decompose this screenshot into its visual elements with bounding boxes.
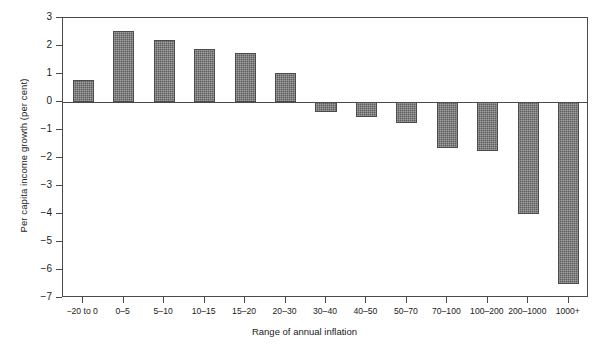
x-axis-tick bbox=[365, 297, 366, 303]
y-axis: 3210−1−2−3−4−5−6−7 bbox=[0, 0, 609, 350]
x-axis-tick-label: 30–40 bbox=[313, 306, 337, 316]
x-axis-tick bbox=[446, 297, 447, 303]
y-axis-tick bbox=[56, 213, 62, 214]
x-axis-tick-label: 0–5 bbox=[116, 306, 130, 316]
x-axis-tick-label: −20 to 0 bbox=[67, 306, 98, 316]
y-axis-tick-label: 1 bbox=[8, 68, 52, 78]
x-axis-tick-label: 70–100 bbox=[432, 306, 461, 316]
y-axis-tick bbox=[56, 129, 62, 130]
x-axis-tick-label: 200–1000 bbox=[508, 306, 546, 316]
x-axis-tick-label: 50–70 bbox=[394, 306, 418, 316]
y-axis-tick bbox=[56, 157, 62, 158]
y-axis-tick-label: −2 bbox=[8, 152, 52, 162]
x-axis-tick bbox=[285, 297, 286, 303]
x-axis-tick bbox=[487, 297, 488, 303]
x-axis-tick-label: 100–200 bbox=[470, 306, 503, 316]
y-axis-tick-label: −7 bbox=[8, 292, 52, 302]
x-axis-tick bbox=[123, 297, 124, 303]
y-axis-tick bbox=[56, 185, 62, 186]
x-axis-tick bbox=[325, 297, 326, 303]
x-axis-tick-label: 1000+ bbox=[556, 306, 580, 316]
x-axis-tick bbox=[163, 297, 164, 303]
y-axis-tick-label: 3 bbox=[8, 12, 52, 22]
y-axis-tick-label: −4 bbox=[8, 208, 52, 218]
x-axis-tick-label: 5–10 bbox=[154, 306, 173, 316]
y-axis-tick bbox=[56, 269, 62, 270]
y-axis-tick-label: −3 bbox=[8, 180, 52, 190]
y-axis-tick bbox=[56, 101, 62, 102]
y-axis-tick bbox=[56, 45, 62, 46]
x-axis-tick bbox=[204, 297, 205, 303]
x-axis-title: Range of annual inflation bbox=[0, 326, 609, 337]
chart-figure: Per capita income growth (per cent) 3210… bbox=[0, 0, 609, 350]
y-axis-tick-label: −6 bbox=[8, 264, 52, 274]
y-axis-tick bbox=[56, 241, 62, 242]
y-axis-tick bbox=[56, 297, 62, 298]
x-axis-tick bbox=[82, 297, 83, 303]
x-axis-tick-label: 10–15 bbox=[192, 306, 216, 316]
y-axis-tick bbox=[56, 73, 62, 74]
y-axis-tick bbox=[56, 17, 62, 18]
x-axis-tick-label: 20–30 bbox=[273, 306, 297, 316]
y-axis-tick-label: 0 bbox=[8, 96, 52, 106]
x-axis-tick-label: 15–20 bbox=[232, 306, 256, 316]
x-axis-tick bbox=[527, 297, 528, 303]
y-axis-tick-label: −5 bbox=[8, 236, 52, 246]
x-axis-tick bbox=[568, 297, 569, 303]
y-axis-tick-label: 2 bbox=[8, 40, 52, 50]
y-axis-tick-label: −1 bbox=[8, 124, 52, 134]
x-axis-tick bbox=[406, 297, 407, 303]
x-axis-tick bbox=[244, 297, 245, 303]
x-axis-tick-label: 40–50 bbox=[354, 306, 378, 316]
